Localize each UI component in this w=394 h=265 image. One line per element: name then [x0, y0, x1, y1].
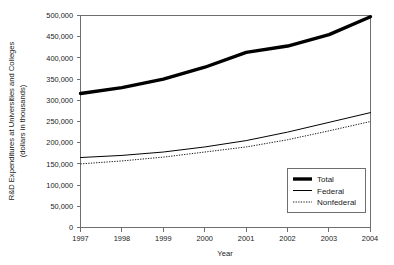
series-line-federal: [81, 113, 371, 158]
x-tick-label: 2003: [321, 234, 337, 243]
y-axis-tickmarks: [77, 16, 81, 228]
chart-legend: Total Federal Nonfederal: [288, 169, 366, 213]
series-line-nonfederal: [81, 122, 371, 164]
x-axis-tick-labels: 1997 1998 1999 2000 2001 2002 2003 2004: [72, 234, 378, 243]
y-tick-label: 500,000: [46, 11, 73, 20]
chart-page: 500,000 450,000 400,000 350,000 300,000 …: [0, 0, 394, 265]
y-axis-title-line1: R&D Expenditures at Universities and Col…: [7, 41, 16, 200]
y-tick-label: 450,000: [46, 32, 73, 41]
y-axis-tick-labels: 500,000 450,000 400,000 350,000 300,000 …: [46, 11, 73, 232]
x-tick-label: 2004: [362, 234, 378, 243]
legend-label-nonfederal: Nonfederal: [317, 198, 356, 207]
x-tick-label: 1998: [114, 234, 130, 243]
y-tick-label: 350,000: [46, 75, 73, 84]
x-tick-label: 2001: [238, 234, 254, 243]
series-line-total: [81, 17, 371, 94]
legend-label-total: Total: [317, 175, 334, 184]
y-tick-label: 50,000: [50, 202, 73, 211]
x-tick-label: 1997: [72, 234, 88, 243]
x-tick-label: 2000: [196, 234, 212, 243]
legend-label-federal: Federal: [317, 187, 344, 196]
x-axis-tickmarks: [81, 228, 371, 232]
y-axis-title-line2: (dollars in thousands): [18, 84, 27, 157]
y-tick-label: 200,000: [46, 138, 73, 147]
y-tick-label: 300,000: [46, 96, 73, 105]
x-axis-title: Year: [217, 249, 233, 258]
y-tick-label: 100,000: [46, 181, 73, 190]
y-tick-label: 0: [69, 223, 73, 232]
x-tick-label: 2002: [279, 234, 295, 243]
y-tick-label: 250,000: [46, 117, 73, 126]
y-tick-label: 400,000: [46, 54, 73, 63]
x-tick-label: 1999: [155, 234, 171, 243]
rd-expenditures-line-chart: 500,000 450,000 400,000 350,000 300,000 …: [0, 0, 394, 265]
y-tick-label: 150,000: [46, 160, 73, 169]
